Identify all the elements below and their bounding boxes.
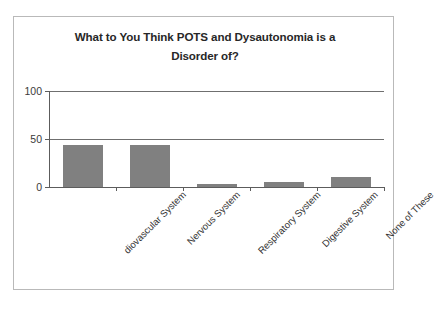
chart-title-line-1: What to You Think POTS and Dysautonomia … <box>75 30 336 43</box>
plot-area: 100 50 0 <box>49 91 384 187</box>
chart-title-line-2: Disorder of? <box>171 49 239 62</box>
bar[interactable] <box>130 145 170 187</box>
x-axis-label-text: Digestive System <box>319 189 379 249</box>
bar-slot <box>116 91 183 187</box>
x-axis-label-text: Respiratory System <box>255 189 322 256</box>
bar-slot <box>317 91 384 187</box>
x-axis-label: Respiratory System <box>255 189 322 256</box>
bar-slot <box>183 91 250 187</box>
chart-title: What to You Think POTS and Dysautonomia … <box>38 27 372 65</box>
bar[interactable] <box>197 184 237 187</box>
chart-container: What to You Think POTS and Dysautonomia … <box>13 16 394 290</box>
y-tick-mark-0 <box>45 187 49 188</box>
y-tick-label-50: 50 <box>30 133 42 145</box>
bar-slot <box>49 91 116 187</box>
bar[interactable] <box>264 182 304 187</box>
x-axis-labels: diovascular SystemNervous SystemRespirat… <box>49 189 384 285</box>
x-axis-label-text: Nervous System <box>184 189 242 247</box>
x-axis-label: None of These <box>383 189 435 241</box>
bar-slot <box>250 91 317 187</box>
y-tick-label-100: 100 <box>24 85 42 97</box>
x-axis-label: Nervous System <box>184 189 242 247</box>
x-tick-mark <box>384 187 385 191</box>
x-axis-label: diovascular System <box>121 189 188 256</box>
x-axis-label-text: None of These <box>383 189 435 241</box>
x-axis-label: Digestive System <box>319 189 379 249</box>
x-axis-label-text: diovascular System <box>121 189 188 256</box>
y-tick-label-0: 0 <box>36 181 42 193</box>
x-axis <box>49 187 384 188</box>
bar-series <box>49 91 384 187</box>
bar[interactable] <box>331 177 371 187</box>
bar[interactable] <box>63 145 103 187</box>
